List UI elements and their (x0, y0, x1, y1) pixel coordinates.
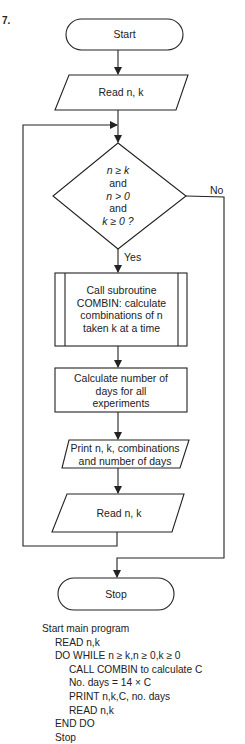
subroutine-line: COMBIN: calculate (65, 297, 178, 310)
subroutine-label: Call subroutine COMBIN: calculate combin… (65, 284, 178, 334)
code-line: READ n,k (42, 636, 202, 650)
code-line: Start main program (42, 622, 202, 636)
yes-label: Yes (124, 251, 141, 263)
code-line: PRINT n,k,C, no. days (42, 690, 202, 704)
decision-line: k ≥ 0 ? (78, 215, 158, 228)
decision-label: n ≥ k and n > 0 and k ≥ 0 ? (78, 164, 158, 228)
pseudocode-block: Start main program READ n,k DO WHILE n ≥… (42, 622, 202, 744)
process-line: days for all (55, 385, 187, 398)
subroutine-line: taken k at a time (65, 322, 178, 335)
subroutine-line: combinations of n (65, 309, 178, 322)
decision-line: n > 0 (78, 190, 158, 203)
decision-line: and (78, 177, 158, 190)
decision-line: n ≥ k (78, 164, 158, 177)
read-label-text: Read n, k (99, 86, 144, 98)
subroutine-line: Call subroutine (65, 284, 178, 297)
code-line: CALL COMBIN to calculate C (42, 663, 202, 677)
print-line: and number of days (62, 455, 188, 468)
stop-label: Stop (58, 588, 174, 601)
code-line: DO WHILE n ≥ k,n ≥ 0,k ≥ 0 (42, 649, 202, 663)
print-line: Print n, k, combinations (62, 442, 188, 455)
process-line: Calculate number of (55, 372, 187, 385)
start-label: Start (66, 28, 183, 41)
process-label: Calculate number of days for all experim… (55, 372, 187, 410)
code-line: END DO (42, 717, 202, 731)
read-label: Read n, k (60, 86, 182, 99)
code-line: Stop (42, 731, 202, 744)
read-label-2: Read n, k (58, 507, 180, 520)
code-line: No. days = 14 × C (42, 676, 202, 690)
process-line: experiments (55, 397, 187, 410)
code-line: READ n,k (42, 704, 202, 718)
decision-line: and (78, 202, 158, 215)
print-label: Print n, k, combinations and number of d… (62, 442, 188, 467)
no-label: No (210, 184, 223, 196)
